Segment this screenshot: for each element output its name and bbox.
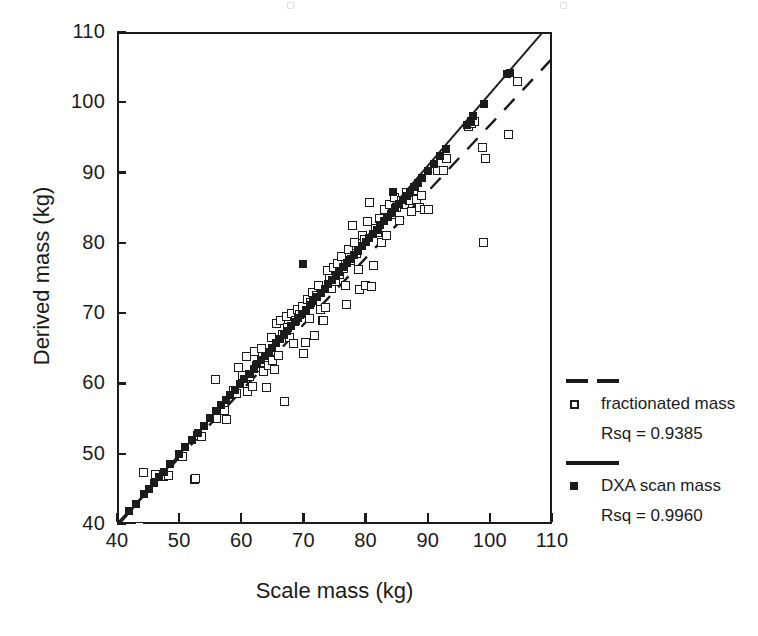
scan-artifact-speck — [560, 2, 567, 9]
data-point-dxa — [175, 450, 183, 458]
data-point-fractionated — [191, 474, 200, 483]
x-axis-tick-label: 40 — [87, 530, 147, 550]
data-point-fractionated — [321, 303, 330, 312]
data-point-fractionated — [299, 349, 308, 358]
data-point-dxa — [469, 112, 477, 120]
legend-row-dxa: DXA scan mass — [566, 472, 754, 500]
data-point-fractionated — [395, 216, 404, 225]
data-point-dxa — [389, 188, 397, 196]
y-axis-title: Derived mass (kg) — [29, 116, 55, 436]
data-point-fractionated — [424, 205, 433, 214]
data-point-fractionated — [222, 415, 231, 424]
x-axis-tick-label: 80 — [336, 530, 396, 550]
open-square-marker-icon — [570, 400, 579, 409]
legend-rsq-dxa: Rsq = 0.9960 — [601, 506, 754, 526]
data-point-dxa — [299, 260, 307, 268]
data-point-fractionated — [135, 522, 144, 524]
data-point-dxa — [424, 167, 432, 175]
data-point-fractionated — [354, 265, 363, 274]
legend-row-fractionated: fractionated mass — [566, 390, 754, 418]
y-axis-tick-label: 60 — [47, 372, 105, 392]
x-axis-title: Scale mass (kg) — [117, 578, 552, 604]
y-axis-tick-label: 90 — [47, 162, 105, 182]
data-point-fractionated — [504, 130, 513, 139]
legend-entry-fractionated: fractionated mass Rsq = 0.9385 — [566, 374, 754, 444]
data-point-fractionated — [478, 143, 487, 152]
data-point-dxa — [430, 160, 438, 168]
legend-label-fractionated: fractionated mass — [601, 394, 735, 414]
data-point-fractionated — [310, 331, 319, 340]
scan-artifact-speck — [287, 2, 294, 9]
x-axis-tick-label: 100 — [460, 530, 520, 550]
chart-legend: fractionated mass Rsq = 0.9385 DXA scan … — [566, 374, 754, 537]
data-point-fractionated — [365, 198, 374, 207]
data-point-dxa — [442, 145, 450, 153]
data-point-fractionated — [270, 365, 279, 374]
y-axis-tick-label: 80 — [47, 232, 105, 252]
legend-entry-dxa: DXA scan mass Rsq = 0.9960 — [566, 456, 754, 526]
data-point-fractionated — [513, 77, 522, 86]
data-point-fractionated — [301, 338, 310, 347]
data-point-dxa — [436, 152, 444, 160]
x-axis-tick-label: 60 — [211, 530, 271, 550]
y-axis-tick-label: 110 — [47, 21, 105, 41]
data-point-dxa — [506, 69, 514, 77]
data-point-fractionated — [382, 231, 391, 240]
data-point-fractionated — [248, 382, 257, 391]
data-point-fractionated — [342, 300, 351, 309]
data-point-fractionated — [367, 282, 376, 291]
y-axis-tick-label: 70 — [47, 302, 105, 322]
data-point-fractionated — [319, 316, 328, 325]
legend-label-dxa: DXA scan mass — [601, 476, 721, 496]
data-point-fractionated — [369, 261, 378, 270]
x-axis-tick-label: 50 — [149, 530, 209, 550]
data-point-fractionated — [139, 468, 148, 477]
legend-line-solid — [566, 456, 754, 470]
y-axis-tick-label: 100 — [47, 91, 105, 111]
legend-rsq-fractionated: Rsq = 0.9385 — [601, 424, 754, 444]
data-point-fractionated — [341, 281, 350, 290]
data-point-fractionated — [262, 383, 271, 392]
data-point-fractionated — [211, 375, 220, 384]
data-point-fractionated — [479, 238, 488, 247]
data-point-dxa — [181, 443, 189, 451]
y-axis-tick-label: 50 — [47, 443, 105, 463]
data-point-fractionated — [348, 221, 357, 230]
data-point-dxa — [166, 460, 174, 468]
data-point-fractionated — [274, 351, 283, 360]
data-point-dxa — [194, 429, 202, 437]
data-point-dxa — [418, 174, 426, 182]
data-point-dxa — [188, 436, 196, 444]
data-point-fractionated — [289, 339, 298, 348]
data-point-dxa — [160, 468, 168, 476]
data-point-dxa — [117, 521, 122, 524]
data-point-fractionated — [439, 166, 448, 175]
x-axis-tick-label: 90 — [398, 530, 458, 550]
data-point-dxa — [206, 414, 214, 422]
data-point-dxa — [480, 100, 488, 108]
legend-line-dashed — [566, 374, 754, 388]
filled-square-marker-icon — [570, 482, 578, 490]
data-point-fractionated — [481, 154, 490, 163]
data-point-dxa — [132, 500, 140, 508]
data-point-dxa — [125, 507, 133, 515]
data-point-fractionated — [280, 397, 289, 406]
x-axis-tick-label: 70 — [273, 530, 333, 550]
data-area — [117, 32, 552, 524]
data-point-dxa — [200, 422, 208, 430]
data-point-fractionated — [417, 191, 426, 200]
scatter-plot-figure: 405060708090100110405060708090100110 Der… — [0, 0, 758, 636]
